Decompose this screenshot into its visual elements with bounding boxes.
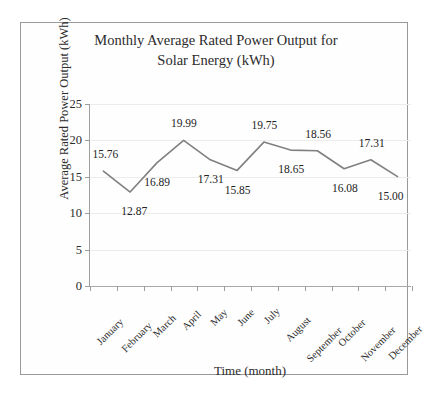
x-axis-title: Time (month) xyxy=(89,363,411,379)
x-tick-mark-5 xyxy=(224,286,225,291)
x-tick-mark-9 xyxy=(332,286,333,291)
x-tick-mark-10 xyxy=(358,286,359,291)
data-label-april: 19.99 xyxy=(171,117,197,129)
y-tick-label-10: 10 xyxy=(70,206,83,221)
data-label-june: 15.85 xyxy=(225,184,251,196)
x-tick-mark-11 xyxy=(385,286,386,291)
x-tick-mark-8 xyxy=(305,286,306,291)
x-category-label-june: June xyxy=(235,307,256,328)
data-label-february: 12.87 xyxy=(121,205,147,217)
data-label-august: 18.65 xyxy=(278,163,304,175)
x-category-label-april: April xyxy=(180,309,203,332)
x-tick-mark-1 xyxy=(117,286,118,291)
x-category-label-march: March xyxy=(151,312,178,339)
chart-title: Monthly Average Rated Power Output for S… xyxy=(61,31,371,70)
x-tick-mark-4 xyxy=(197,286,198,291)
x-category-label-february: February xyxy=(120,320,155,355)
data-label-september: 18.56 xyxy=(305,128,331,140)
x-tick-mark-2 xyxy=(144,286,145,291)
plot-area: 0510152025 15.7612.8716.8919.9917.3115.8… xyxy=(89,104,411,286)
x-category-label-september: September xyxy=(304,325,344,365)
x-category-label-august: August xyxy=(284,314,313,343)
y-tick-label-5: 5 xyxy=(76,242,82,257)
y-tick-label-0: 0 xyxy=(76,279,82,294)
data-label-december: 15.00 xyxy=(378,190,404,202)
y-tick-label-20: 20 xyxy=(70,133,83,148)
data-label-may: 17.31 xyxy=(198,173,224,185)
data-label-october: 16.08 xyxy=(332,182,358,194)
x-category-label-may: May xyxy=(208,307,229,328)
x-category-label-july: July xyxy=(262,305,282,325)
x-tick-mark-3 xyxy=(171,286,172,291)
plot-inner: 0510152025 15.7612.8716.8919.9917.3115.8… xyxy=(89,104,411,286)
data-label-january: 15.76 xyxy=(92,148,118,160)
x-tick-mark-7 xyxy=(278,286,279,291)
chart-frame: Monthly Average Rated Power Output for S… xyxy=(20,22,408,375)
data-label-july: 19.75 xyxy=(251,119,277,131)
chart-title-line-1: Monthly Average Rated Power Output for xyxy=(61,31,371,51)
y-tick-label-25: 25 xyxy=(70,97,83,112)
data-label-november: 17.31 xyxy=(359,137,385,149)
x-tick-mark-12 xyxy=(412,286,413,291)
y-tick-label-15: 15 xyxy=(70,169,83,184)
chart-page: Monthly Average Rated Power Output for S… xyxy=(0,0,429,399)
x-category-label-january: January xyxy=(95,316,126,347)
x-tick-mark-6 xyxy=(251,286,252,291)
chart-title-line-2: Solar Energy (kWh) xyxy=(61,51,371,71)
x-tick-mark-0 xyxy=(90,286,91,291)
data-label-march: 16.89 xyxy=(144,176,170,188)
